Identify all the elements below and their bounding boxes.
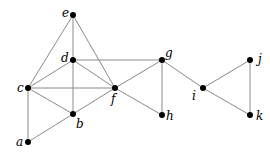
- edge-f-h: [115, 88, 162, 115]
- edge-e-f: [73, 15, 115, 88]
- edge-g-i: [162, 60, 203, 88]
- nodes: edcfbaghijk: [16, 6, 263, 149]
- node-d: [70, 57, 76, 63]
- edge-f-g: [115, 60, 162, 88]
- node-label-a: a: [16, 135, 23, 149]
- node-label-e: e: [62, 6, 69, 20]
- edge-i-j: [203, 60, 250, 88]
- edge-c-b: [28, 88, 73, 114]
- graph-diagram: edcfbaghijk: [0, 0, 270, 156]
- node-label-g: g: [165, 46, 173, 60]
- node-f: [112, 85, 118, 91]
- node-label-h: h: [166, 109, 174, 123]
- node-j: [247, 57, 253, 63]
- node-label-i: i: [192, 89, 196, 103]
- node-label-k: k: [256, 109, 263, 123]
- node-e: [70, 12, 76, 18]
- node-a: [25, 139, 31, 145]
- node-label-j: j: [255, 52, 262, 66]
- node-label-d: d: [61, 51, 69, 65]
- node-k: [247, 112, 253, 118]
- node-label-c: c: [17, 81, 24, 95]
- edge-i-k: [203, 88, 250, 115]
- edges: [28, 15, 250, 142]
- node-label-b: b: [76, 117, 84, 131]
- node-c: [25, 85, 31, 91]
- node-label-f: f: [110, 92, 118, 106]
- edge-d-f: [73, 60, 115, 88]
- node-h: [159, 112, 165, 118]
- edge-a-b: [28, 114, 73, 142]
- node-i: [200, 85, 206, 91]
- edge-b-f: [73, 88, 115, 114]
